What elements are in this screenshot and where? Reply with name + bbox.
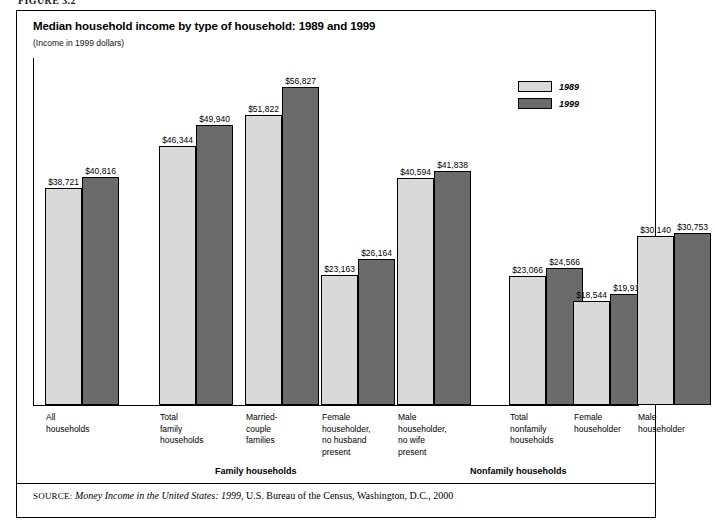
category-label-line: present (398, 447, 476, 459)
source-rest: , U.S. Bureau of the Census, Washington,… (241, 490, 453, 501)
section-label-family: Family households (215, 466, 297, 476)
bar-1999-1: $40,816 (82, 177, 119, 405)
bar-pair: $46,344$49,940 (159, 58, 233, 405)
category-label-line: couple (246, 424, 324, 436)
bar-value-label: $23,066 (512, 265, 543, 275)
bar-1989-4: $23,163 (321, 275, 358, 405)
bar-1989-1: $38,721 (45, 188, 82, 405)
category-label-line: households (46, 424, 124, 436)
bar-value-label: $41,838 (437, 160, 468, 170)
chart-subtitle: (Income in 1999 dollars) (33, 38, 124, 48)
category-label-line: no wife (398, 435, 476, 447)
category-label-line: Male (638, 412, 715, 424)
bar-value-label: $46,344 (162, 135, 193, 145)
bar-value-label: $51,822 (248, 104, 279, 114)
category-label-line: householder, (398, 424, 476, 436)
category-label-line: householder, (322, 424, 400, 436)
source-title: Money Income in the United States: 1999 (75, 490, 241, 501)
category-label-line: family (160, 424, 238, 436)
category-label-line: families (246, 435, 324, 447)
bar-value-label: $49,940 (199, 114, 230, 124)
category-label: Malehouseholder (638, 412, 715, 435)
x-axis-line (33, 405, 639, 406)
bar-1999-8: $30,753 (674, 233, 711, 405)
category-label-line: no husband (322, 435, 400, 447)
source-divider (17, 483, 655, 484)
bar-pair: $18,544$19,917 (573, 58, 647, 405)
bar-1989-6: $23,066 (509, 276, 546, 405)
category-label-line: present (322, 447, 400, 459)
figure-number: FIGURE 3.2 (18, 0, 76, 6)
bar-value-label: $26,164 (361, 248, 392, 258)
category-label-line: households (510, 435, 588, 447)
source-prefix: SOURCE: (33, 491, 72, 501)
category-label: Allhouseholds (46, 412, 124, 435)
section-label-nonfamily: Nonfamily households (470, 466, 567, 476)
bar-value-label: $30,140 (640, 225, 671, 235)
category-label-line: All (46, 412, 124, 424)
plot-area: $38,721$40,816$46,344$49,940$51,822$56,8… (33, 58, 639, 406)
category-label-line: Total (160, 412, 238, 424)
bar-1999-3: $56,827 (282, 87, 319, 405)
bar-pair: $38,721$40,816 (45, 58, 119, 405)
bar-1989-5: $40,594 (397, 178, 434, 405)
bar-pair: $51,822$56,827 (245, 58, 319, 405)
bar-pair: $30,140$30,753 (637, 58, 711, 405)
source-note: SOURCE: Money Income in the United State… (33, 490, 453, 501)
category-label-line: households (160, 435, 238, 447)
bar-value-label: $56,827 (285, 76, 316, 86)
bar-1989-2: $46,344 (159, 146, 196, 405)
bar-value-label: $38,721 (48, 177, 79, 187)
category-label-line: Married- (246, 412, 324, 424)
bar-pair: $23,066$24,566 (509, 58, 583, 405)
category-label-line: Female (322, 412, 400, 424)
bar-value-label: $40,594 (400, 167, 431, 177)
category-label: Married-couplefamilies (246, 412, 324, 447)
bar-value-label: $23,163 (324, 264, 355, 274)
category-label: Totalfamilyhouseholds (160, 412, 238, 447)
bar-1999-5: $41,838 (434, 171, 471, 405)
bar-value-label: $18,544 (576, 290, 607, 300)
category-label-line: Male (398, 412, 476, 424)
bar-1989-7: $18,544 (573, 301, 610, 405)
page-title: Median household income by type of house… (33, 20, 375, 32)
bar-1999-2: $49,940 (196, 125, 233, 405)
y-axis-line (33, 58, 34, 406)
bar-value-label: $30,753 (677, 222, 708, 232)
category-label: Malehouseholder,no wifepresent (398, 412, 476, 458)
bar-value-label: $40,816 (85, 166, 116, 176)
category-label-line: householder (638, 424, 715, 436)
bar-1989-8: $30,140 (637, 236, 674, 405)
bar-pair: $40,594$41,838 (397, 58, 471, 405)
bar-pair: $23,163$26,164 (321, 58, 395, 405)
bar-1999-4: $26,164 (358, 259, 395, 405)
bar-1989-3: $51,822 (245, 115, 282, 405)
category-label: Femalehouseholder,no husbandpresent (322, 412, 400, 458)
